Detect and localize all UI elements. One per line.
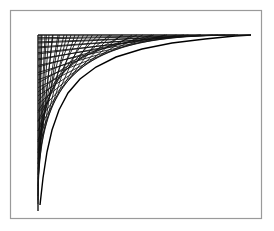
figure-container: Envelope of straight line segments formi… <box>0 0 274 231</box>
line-envelope-figure: Envelope of straight line segments formi… <box>0 0 274 231</box>
